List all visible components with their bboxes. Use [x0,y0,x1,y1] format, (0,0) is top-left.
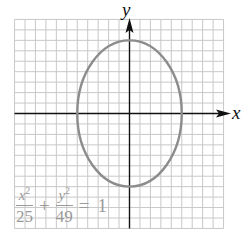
x-denominator: 25 [16,208,33,225]
ellipse-equation: x2 25 + y2 49 = 1 [16,186,109,225]
fraction-y-term: y2 49 [56,186,73,225]
y-axis-label: y [122,0,130,19]
x-exponent: 2 [25,185,30,196]
equals-sign: = [77,195,92,217]
fraction-bar [56,205,73,206]
y-denominator: 49 [56,208,73,225]
x-axis-label: x [232,103,240,122]
fraction-bar [16,205,33,206]
plus-sign: + [37,195,52,217]
y-exponent: 2 [65,185,70,196]
equation-rhs: 1 [95,195,109,217]
fraction-x-term: x2 25 [16,186,33,225]
